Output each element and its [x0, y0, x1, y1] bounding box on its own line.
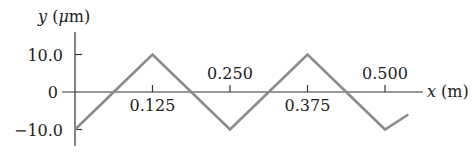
y-axis-title: y (μm) [37, 7, 90, 26]
x-tick-label: 0.250 [207, 64, 253, 83]
y-tick-label: 0 [48, 83, 58, 102]
x-tick-label: 0.375 [285, 96, 331, 115]
y-tick-label: 10.0 [27, 46, 63, 65]
triangle-wave-chart: 10.00−10.00.1250.2500.3750.500y (μm)x (m… [0, 0, 472, 152]
x-tick-label: 0.125 [130, 96, 176, 115]
x-tick-label: 0.500 [362, 64, 408, 83]
x-axis-title: x (m) [427, 82, 469, 101]
y-tick-label: −10.0 [14, 121, 63, 140]
